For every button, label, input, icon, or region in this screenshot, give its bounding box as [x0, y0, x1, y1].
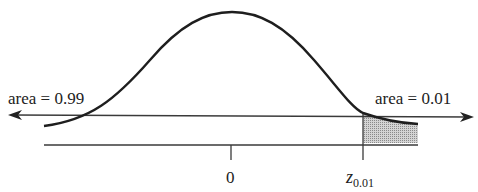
shaded-tail-region: [363, 114, 418, 143]
bell-curve: [44, 12, 418, 126]
critical-label-sub: 0.01: [353, 176, 374, 190]
center-tick-label: 0: [226, 168, 235, 187]
critical-label-main: z: [345, 167, 353, 187]
normal-curve-diagram: area = 0.99 area = 0.01 0 z0.01: [0, 0, 478, 192]
right-area-label: area = 0.01: [375, 89, 451, 108]
critical-value-label: z0.01: [345, 167, 374, 190]
left-area-label: area = 0.99: [8, 89, 84, 108]
